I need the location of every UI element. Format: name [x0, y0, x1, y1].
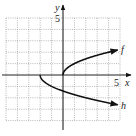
- y-tick-label-5: 5: [55, 13, 60, 24]
- graph-plot: y 5 5 x f h: [0, 0, 136, 136]
- curve-f-label: f: [121, 44, 125, 55]
- x-axis-label: x: [124, 77, 130, 88]
- curve-h-label: h: [121, 100, 126, 111]
- curve-f: [63, 50, 118, 75]
- x-tick-label-5: 5: [114, 77, 119, 88]
- y-axis-label: y: [54, 2, 60, 13]
